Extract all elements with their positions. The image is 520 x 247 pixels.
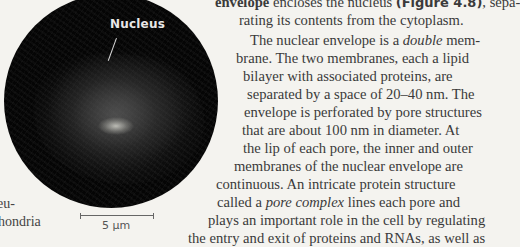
text-run: encloses the nucleus [269,0,395,10]
text-line: separated by a space of 20–40 nm. The [247,85,474,103]
text-run: called a [217,194,266,210]
margin-fragment: hondria [0,214,41,230]
figure-reference: (Figure 4.8) [396,0,483,10]
text-line: that are about 100 nm in diameter. At [242,121,459,139]
scale-bar-label: 5 µm [102,219,130,232]
emphasis: pore complex [266,194,344,210]
text-line: membranes of the nuclear envelope are [234,157,463,175]
text-line: rating its contents from the cytoplasm. [239,11,464,29]
text-line: the lip of each pore, the inner and oute… [243,139,473,157]
text-line: called a pore complex lines each pore an… [217,193,460,211]
text-line: plays an important role in the cell by r… [208,211,485,229]
text-run: lines each pore and [344,194,460,210]
emphasis: double [403,32,443,48]
text-run: , sepa- [482,0,520,10]
text-line: the entry and exit of proteins and RNAs,… [188,229,485,247]
text-run: The nuclear envelope is a [250,32,403,48]
fluorescence-micrograph [4,0,218,208]
text-line: brane. The two membranes, each a lipid [236,49,469,67]
nucleus-label: Nucleus [110,17,165,31]
text-line: envelope is perforated by pore structure… [244,103,482,121]
text-line: The nuclear envelope is a double mem- [250,31,480,49]
text-run: mem- [443,32,481,48]
bold-term: envelope [215,0,269,10]
cell-body [34,54,204,184]
margin-fragment: eu- [0,196,15,212]
text-line: continuous. An intricate protein structu… [216,175,456,193]
text-line: bilayer with associated proteins, are [243,67,453,85]
